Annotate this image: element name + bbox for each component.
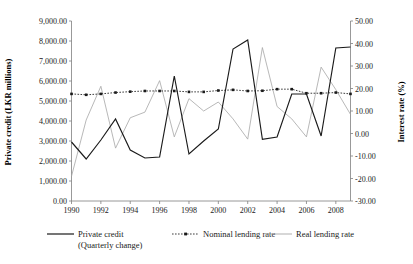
right-axis-tick-label: 50.00 [355, 17, 373, 26]
series-marker-nominal-lending-rate [188, 91, 191, 94]
series-marker-nominal-lending-rate [320, 92, 323, 95]
legend-label-second-line: (Quarterly change) [78, 240, 143, 250]
line-chart-figure: 0.001,000.002,000.003,000.004,000.005,00… [0, 0, 413, 264]
x-axis-tick-label: 2008 [328, 206, 344, 215]
right-axis-tick-label: -30.00 [355, 197, 376, 206]
series-marker-nominal-lending-rate [129, 90, 132, 93]
series-marker-nominal-lending-rate [246, 90, 249, 93]
right-axis-title: Interest rate (%) [396, 81, 406, 142]
right-axis-tick-label: -20.00 [355, 175, 376, 184]
right-axis-tick-label: 30.00 [355, 62, 373, 71]
left-axis-tick-label: 0.00 [53, 197, 67, 206]
series-marker-nominal-lending-rate [261, 89, 264, 92]
right-axis-tick-label: 10.00 [355, 107, 373, 116]
legend-label: Private credit [78, 229, 124, 239]
left-axis-tick-label: 1,000.00 [39, 177, 67, 186]
x-axis-tick-label: 1998 [181, 206, 197, 215]
left-axis-tick-label: 5,000.00 [39, 97, 67, 106]
x-axis-tick-label: 1996 [152, 206, 168, 215]
series-marker-nominal-lending-rate [202, 91, 205, 94]
x-axis-tick-label: 2000 [210, 206, 226, 215]
right-axis-tick-label: 40.00 [355, 40, 373, 49]
series-marker-nominal-lending-rate [335, 91, 338, 94]
left-axis-title: Private credit (LKR millions) [3, 58, 13, 165]
x-axis-tick-label: 1990 [64, 206, 80, 215]
left-axis-tick-label: 8,000.00 [39, 37, 67, 46]
left-axis-tick-label: 7,000.00 [39, 57, 67, 66]
series-marker-nominal-lending-rate [158, 90, 161, 93]
x-axis-tick-label: 1992 [93, 206, 109, 215]
series-marker-nominal-lending-rate [276, 88, 279, 91]
series-marker-nominal-lending-rate [70, 93, 73, 96]
false [184, 233, 187, 236]
legend-label: Nominal lending rate [203, 229, 275, 239]
series-marker-nominal-lending-rate [173, 90, 176, 93]
series-marker-nominal-lending-rate [232, 89, 235, 92]
x-axis-tick-label: 2002 [240, 206, 256, 215]
left-axis-tick-label: 6,000.00 [39, 77, 67, 86]
series-marker-nominal-lending-rate [100, 93, 103, 96]
left-axis-tick-label: 3,000.00 [39, 137, 67, 146]
right-axis-tick-label: -10.00 [355, 152, 376, 161]
x-axis-tick-label: 1994 [122, 206, 138, 215]
series-marker-nominal-lending-rate [349, 93, 352, 96]
series-marker-nominal-lending-rate [85, 94, 88, 97]
left-axis-tick-label: 2,000.00 [39, 157, 67, 166]
series-marker-nominal-lending-rate [144, 90, 147, 93]
left-axis-tick-label: 4,000.00 [39, 117, 67, 126]
x-axis-tick-label: 2004 [269, 206, 285, 215]
x-axis-tick-label: 2006 [298, 206, 314, 215]
left-axis-tick-label: 9,000.00 [39, 17, 67, 26]
right-y-axis: -30.00-20.00-10.000.0010.0020.0030.0040.… [351, 17, 376, 206]
series-marker-nominal-lending-rate [217, 89, 220, 92]
right-axis-tick-label: 0.00 [355, 130, 369, 139]
right-axis-tick-label: 20.00 [355, 85, 373, 94]
series-marker-nominal-lending-rate [114, 91, 117, 94]
series-marker-nominal-lending-rate [290, 88, 293, 91]
legend-label: Real lending rate [296, 229, 354, 239]
chart-container: 0.001,000.002,000.003,000.004,000.005,00… [0, 0, 413, 264]
